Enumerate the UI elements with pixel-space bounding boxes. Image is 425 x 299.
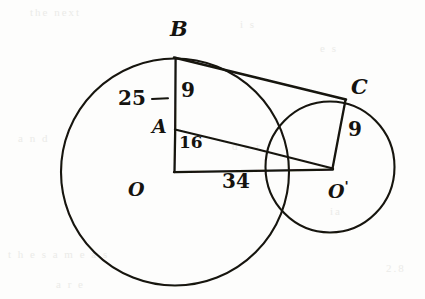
label-leader-dash-25 [152, 98, 168, 99]
prime-mark: ' [345, 178, 349, 194]
point-label-b: B [170, 18, 188, 39]
point-label-a: A [152, 117, 167, 136]
segment-ob [175, 58, 176, 172]
measure-label-9-co1: 9 [348, 119, 362, 139]
measure-label-16: 16 [179, 134, 203, 151]
diagram-canvas: the nexti se sa n dd e riat h e s a m e … [0, 0, 425, 299]
segment-bc-tangent [174, 58, 346, 100]
point-label-c: C [351, 76, 368, 97]
geometry-drawing [0, 0, 425, 299]
measure-label-9-ba: 9 [181, 80, 195, 100]
segment-o-o1 [174, 170, 333, 173]
measure-label-25: 25 [118, 88, 146, 108]
o-prime-letter: O [328, 180, 345, 202]
point-label-o: O [128, 180, 145, 199]
measure-label-34: 34 [222, 171, 250, 191]
segment-c-o1 [333, 100, 346, 169]
point-label-o-prime: O' [328, 180, 349, 201]
